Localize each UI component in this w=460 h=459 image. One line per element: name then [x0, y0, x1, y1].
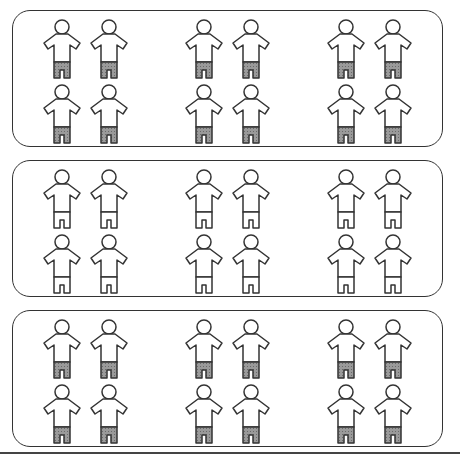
child-figure-icon [87, 168, 131, 230]
child-figure-icon [371, 383, 415, 445]
child-figure-icon [324, 383, 368, 445]
child-figure-icon [182, 83, 226, 145]
child-figure-icon [229, 83, 273, 145]
child-figure-icon [229, 18, 273, 80]
child-figure-icon [182, 318, 226, 380]
child-figure-icon [182, 18, 226, 80]
child-figure-icon [371, 318, 415, 380]
child-figure-icon [229, 318, 273, 380]
child-figure-icon [87, 318, 131, 380]
child-figure-icon [40, 83, 84, 145]
child-figure-icon [371, 83, 415, 145]
child-figure-icon [371, 233, 415, 295]
child-figure-icon [324, 168, 368, 230]
child-figure-icon [87, 233, 131, 295]
child-figure-icon [182, 383, 226, 445]
child-figure-icon [182, 168, 226, 230]
child-figure-icon [371, 168, 415, 230]
child-figure-icon [324, 233, 368, 295]
child-figure-icon [324, 83, 368, 145]
child-figure-icon [40, 168, 84, 230]
bottom-rule [0, 452, 460, 454]
child-figure-icon [40, 18, 84, 80]
child-figure-icon [87, 383, 131, 445]
child-figure-icon [229, 383, 273, 445]
child-figure-icon [87, 18, 131, 80]
child-figure-icon [371, 18, 415, 80]
child-figure-icon [40, 233, 84, 295]
child-figure-icon [324, 318, 368, 380]
child-figure-icon [40, 318, 84, 380]
child-figure-icon [229, 233, 273, 295]
child-figure-icon [40, 383, 84, 445]
child-figure-icon [182, 233, 226, 295]
child-figure-icon [87, 83, 131, 145]
child-figure-icon [229, 168, 273, 230]
child-figure-icon [324, 18, 368, 80]
